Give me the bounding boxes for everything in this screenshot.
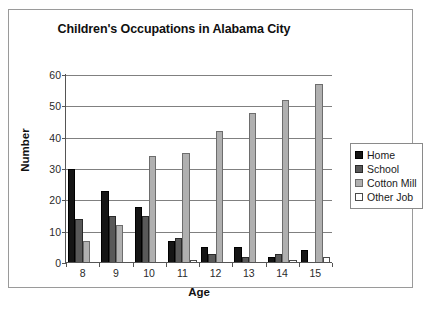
bar	[182, 153, 189, 263]
bar	[83, 241, 90, 263]
y-axis-tick-label: 10	[39, 226, 61, 238]
legend: HomeSchoolCotton MillOther Job	[350, 143, 423, 209]
x-axis-tick-mark	[166, 263, 167, 267]
x-axis-tick-label: 10	[143, 267, 155, 279]
bar	[109, 216, 116, 263]
bar-group	[101, 75, 130, 263]
bar	[135, 207, 142, 263]
x-axis-tick-label: 15	[310, 267, 322, 279]
bar	[216, 131, 223, 263]
bar	[75, 219, 82, 263]
bar	[142, 216, 149, 263]
legend-label: Home	[367, 149, 395, 161]
legend-label: Cotton Mill	[367, 177, 417, 189]
bar	[282, 100, 289, 263]
x-axis-tick-label: 11	[177, 267, 188, 279]
bar-group	[168, 75, 197, 263]
chart-frame: Children's Occupations in Alabama City N…	[8, 9, 413, 288]
y-axis-tick-labels: 0102030405060	[36, 75, 61, 263]
legend-item-cotton-mill[interactable]: Cotton Mill	[355, 176, 417, 189]
bar	[116, 225, 123, 263]
bar-group	[301, 75, 330, 263]
legend-item-other-job[interactable]: Other Job	[355, 190, 417, 203]
legend-item-home[interactable]: Home	[355, 148, 417, 161]
y-axis-tick-label: 20	[39, 194, 61, 206]
bar	[249, 113, 256, 263]
y-axis-label: Number	[19, 128, 31, 171]
legend-label: Other Job	[367, 191, 413, 203]
bar	[101, 191, 108, 263]
x-axis-tick-label: 9	[113, 267, 119, 279]
bar-group	[268, 75, 297, 263]
x-axis-tick-mark	[99, 263, 100, 267]
x-axis-label: Age	[66, 286, 332, 298]
bar	[168, 241, 175, 263]
x-axis-tick-label: 8	[80, 267, 86, 279]
legend-swatch-icon	[355, 151, 363, 159]
y-axis-tick-label: 60	[39, 69, 61, 81]
y-axis-tick-label: 30	[39, 163, 61, 175]
bar-group	[68, 75, 97, 263]
bar	[201, 247, 208, 263]
x-axis-tick-label: 13	[243, 267, 255, 279]
chart-title: Children's Occupations in Alabama City	[9, 22, 339, 36]
x-axis-tick-mark	[133, 263, 134, 267]
bar-group	[234, 75, 263, 263]
x-axis-tick-mark	[199, 263, 200, 267]
x-axis-tick-mark	[332, 263, 333, 267]
y-axis-tick-label: 50	[39, 100, 61, 112]
x-axis-tick-mark	[299, 263, 300, 267]
x-axis-tick-mark	[266, 263, 267, 267]
bar	[315, 84, 322, 263]
bar-group	[201, 75, 230, 263]
y-axis-tick-label: 40	[39, 132, 61, 144]
x-axis-tick-mark	[66, 263, 67, 267]
x-axis-tick-label: 12	[210, 267, 222, 279]
bar	[175, 238, 182, 263]
legend-swatch-icon	[355, 165, 363, 173]
bar	[68, 169, 75, 263]
legend-item-school[interactable]: School	[355, 162, 417, 175]
x-axis-tick-mark	[232, 263, 233, 267]
y-axis-line	[65, 74, 66, 264]
bar	[234, 247, 241, 263]
legend-swatch-icon	[355, 179, 363, 187]
y-axis-tick-label: 0	[39, 257, 61, 269]
bar	[149, 156, 156, 263]
x-axis-tick-label: 14	[276, 267, 288, 279]
legend-swatch-icon	[355, 193, 363, 201]
bar-group	[135, 75, 164, 263]
legend-label: School	[367, 163, 399, 175]
plot-area: 89101112131415	[66, 75, 332, 263]
